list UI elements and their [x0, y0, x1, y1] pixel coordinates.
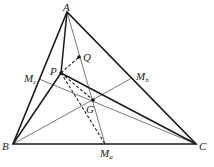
- label-c: C: [199, 140, 207, 152]
- label-q: Q: [83, 51, 91, 63]
- label-ma: Ma: [99, 147, 113, 161]
- label-b: B: [2, 140, 9, 152]
- triangle-abc: [13, 12, 196, 144]
- dashed-pq: [61, 57, 79, 73]
- point-g: [91, 98, 95, 102]
- dashed-pma: [61, 73, 105, 144]
- point-q: [77, 55, 81, 59]
- label-p: P: [49, 65, 57, 77]
- geometry-diagram: A B C P Q G Ma Mb Mc: [0, 0, 214, 167]
- segment-pc: [61, 73, 196, 144]
- label-mb: Mb: [135, 70, 149, 84]
- median-b: [13, 78, 132, 144]
- median-c: [39, 79, 196, 144]
- label-g: G: [86, 103, 94, 115]
- label-a: A: [62, 1, 70, 13]
- point-p: [59, 71, 63, 75]
- label-mc: Mc: [23, 72, 37, 86]
